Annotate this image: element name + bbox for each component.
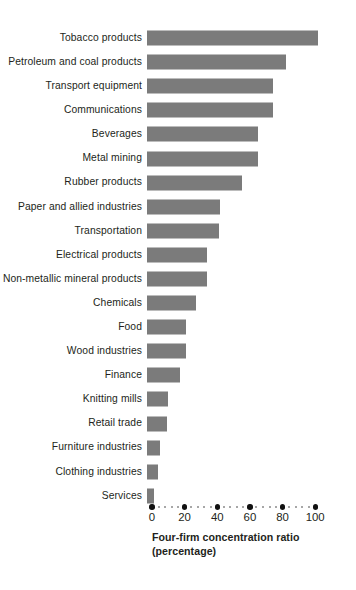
axis-minor-dot	[210, 506, 212, 508]
bar-row: Chemicals	[0, 291, 356, 315]
axis-major-tick-dot	[247, 504, 252, 509]
x-axis-title: Four-firm concentration ratio (percentag…	[152, 531, 352, 558]
axis-minor-dot	[242, 506, 244, 508]
category-label: Services	[0, 491, 147, 501]
bar-track	[147, 339, 356, 363]
category-label: Paper and allied industries	[0, 202, 147, 212]
axis-minor-dot	[269, 506, 271, 508]
axis-minor-dot	[203, 506, 205, 508]
category-label: Communications	[0, 105, 147, 115]
bar-track	[147, 412, 356, 436]
bar	[147, 320, 186, 335]
bar	[147, 464, 158, 479]
bar	[147, 247, 207, 262]
bar-row: Beverages	[0, 122, 356, 146]
axis-minor-dot	[177, 506, 179, 508]
x-axis-dotted-line	[152, 503, 320, 512]
bar	[147, 223, 219, 238]
bar-row: Tobacco products	[0, 26, 356, 50]
category-label: Tobacco products	[0, 33, 147, 43]
axis-minor-dot	[223, 506, 225, 508]
category-label: Wood industries	[0, 346, 147, 356]
category-label: Finance	[0, 370, 147, 380]
x-tick-label: 40	[211, 512, 224, 523]
bar-row: Knitting mills	[0, 387, 356, 411]
x-tick-label: 0	[149, 512, 155, 523]
category-label: Food	[0, 322, 147, 332]
x-axis-tick-labels: 020406080100	[0, 512, 356, 528]
category-label: Metal mining	[0, 153, 147, 163]
bar-row: Electrical products	[0, 243, 356, 267]
bar-row: Communications	[0, 98, 356, 122]
category-label: Chemicals	[0, 298, 147, 308]
axis-minor-dot	[295, 506, 297, 508]
x-tick-label: 100	[306, 512, 325, 523]
x-tick-label: 20	[178, 512, 191, 523]
axis-minor-dot	[171, 506, 173, 508]
axis-minor-dot	[229, 506, 231, 508]
bar-track	[147, 171, 356, 195]
bar-track	[147, 267, 356, 291]
bar-track	[147, 195, 356, 219]
bar	[147, 344, 186, 359]
x-tick-label: 80	[276, 512, 289, 523]
bar	[147, 392, 168, 407]
axis-minor-dot	[308, 506, 310, 508]
bar	[147, 199, 220, 214]
bar-chart-figure: Tobacco productsPetroleum and coal produ…	[0, 0, 356, 590]
bar	[147, 175, 242, 190]
bar	[147, 79, 273, 94]
bar-track	[147, 26, 356, 50]
bar	[147, 416, 167, 431]
category-label: Transport equipment	[0, 81, 147, 91]
bar-track	[147, 387, 356, 411]
bar-row: Petroleum and coal products	[0, 50, 356, 74]
axis-title-line-2: (percentage)	[152, 545, 352, 559]
bar	[147, 103, 273, 118]
bar-track	[147, 291, 356, 315]
bar-row: Food	[0, 315, 356, 339]
category-label: Non-metallic mineral products	[0, 274, 147, 284]
bar-row: Transportation	[0, 219, 356, 243]
axis-minor-dot	[288, 506, 290, 508]
category-label: Petroleum and coal products	[0, 57, 147, 67]
axis-minor-dot	[236, 506, 238, 508]
category-label: Knitting mills	[0, 394, 147, 404]
bar-track	[147, 436, 356, 460]
bar-row: Wood industries	[0, 339, 356, 363]
bar	[147, 55, 286, 70]
axis-major-tick-dot	[149, 504, 154, 509]
bar-track	[147, 363, 356, 387]
bar-row: Non-metallic mineral products	[0, 267, 356, 291]
bar-row: Paper and allied industries	[0, 195, 356, 219]
bar-row: Finance	[0, 363, 356, 387]
axis-major-tick-dot	[313, 504, 318, 509]
bar-track	[147, 122, 356, 146]
bar-row: Rubber products	[0, 171, 356, 195]
bar-track	[147, 74, 356, 98]
bar-track	[147, 460, 356, 484]
bar-track	[147, 315, 356, 339]
bar	[147, 127, 258, 142]
bar-track	[147, 50, 356, 74]
axis-minor-dot	[301, 506, 303, 508]
axis-minor-dot	[275, 506, 277, 508]
bar-row: Transport equipment	[0, 74, 356, 98]
bar	[147, 368, 180, 383]
axis-major-tick-dot	[280, 504, 285, 509]
x-tick-label: 60	[244, 512, 257, 523]
axis-minor-dot	[158, 506, 160, 508]
bar-row: Clothing industries	[0, 460, 356, 484]
bar	[147, 151, 258, 166]
bar	[147, 271, 207, 286]
bar-rows: Tobacco productsPetroleum and coal produ…	[0, 26, 356, 508]
axis-minor-dot	[190, 506, 192, 508]
category-label: Furniture industries	[0, 442, 147, 452]
axis-minor-dot	[197, 506, 199, 508]
axis-title-line-1: Four-firm concentration ratio	[152, 531, 352, 545]
bar-row: Retail trade	[0, 412, 356, 436]
bar	[147, 31, 318, 46]
bar	[147, 296, 196, 311]
category-label: Electrical products	[0, 250, 147, 260]
category-label: Beverages	[0, 129, 147, 139]
